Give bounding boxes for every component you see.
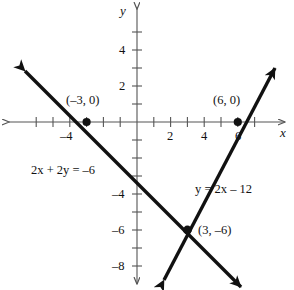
x-tick-label-2: 2 — [167, 130, 173, 143]
y-tick-label-neg8: –8 — [112, 260, 125, 273]
point-6-0 — [234, 118, 242, 126]
point-label-3-neg6: (3, –6) — [198, 224, 231, 237]
x-tick-label-6: 6 — [235, 130, 241, 143]
y-axis-label: y — [120, 4, 126, 17]
y-tick-label-2: 2 — [119, 80, 125, 93]
x-tick-label-neg4: –4 — [60, 130, 73, 143]
graph-canvas — [0, 0, 294, 290]
y-tick-label-neg4: –4 — [112, 188, 125, 201]
coordinate-plane-figure: y x –4 2 4 6 4 2 –4 –6 –8 (–3, 0) (6, 0)… — [0, 0, 294, 290]
x-tick-label-4: 4 — [201, 130, 207, 143]
point-neg3-0 — [83, 118, 91, 126]
point-label-6-0: (6, 0) — [213, 94, 240, 107]
point-3-neg6 — [183, 226, 192, 235]
point-label-neg3-0: (–3, 0) — [66, 94, 99, 107]
equation-label-1: 2x + 2y = –6 — [31, 164, 95, 177]
y-tick-label-neg6: –6 — [112, 224, 125, 237]
line-2x-plus-2y-equals-neg6 — [25, 71, 241, 287]
y-tick-label-4: 4 — [119, 44, 125, 57]
equation-label-2: y = 2x – 12 — [195, 183, 252, 196]
y-axis — [132, 9, 142, 284]
x-axis-label: x — [280, 126, 286, 139]
